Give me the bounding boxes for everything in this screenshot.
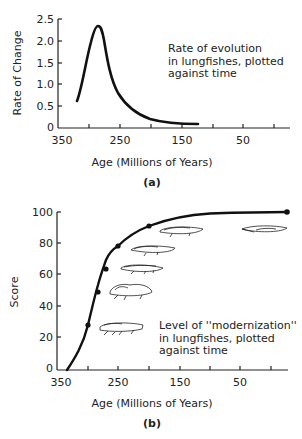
svg-text:1.0: 1.0: [37, 78, 55, 91]
figure: 2.5 2.0 1.5 1.0 0.5 0 Rate of Change 350…: [0, 0, 302, 439]
chart-a-y-tick-labels: 2.5 2.0 1.5 1.0 0.5 0: [37, 13, 55, 134]
svg-text:1.5: 1.5: [37, 57, 55, 70]
svg-text:80: 80: [39, 237, 53, 250]
lungfish-sketch-4-icon: [131, 246, 175, 256]
chart-b-x-label: Age (Millions of Years): [91, 397, 212, 410]
chart-b-annotation: Level of ''modernization'' in lungfishes…: [159, 319, 297, 357]
svg-text:Rate of evolution: Rate of evolution: [168, 42, 262, 55]
lungfish-sketch-1-icon: [100, 323, 143, 335]
svg-text:100: 100: [32, 206, 53, 219]
svg-text:40: 40: [39, 300, 53, 313]
lungfish-sketch-2-icon: [110, 284, 152, 300]
svg-text:against time: against time: [159, 344, 228, 357]
svg-text:0: 0: [47, 121, 54, 134]
chart-a: 2.5 2.0 1.5 1.0 0.5 0 Rate of Change 350…: [11, 13, 290, 189]
chart-a-x-label: Age (Millions of Years): [91, 156, 212, 169]
data-point-marker: [146, 223, 151, 228]
svg-text:250: 250: [110, 134, 131, 147]
lungfish-sketch-6-icon: [242, 226, 287, 232]
chart-a-panel-label: (a): [143, 176, 160, 189]
data-point-marker: [103, 266, 108, 271]
data-point-marker: [85, 322, 90, 327]
svg-text:50: 50: [233, 376, 247, 389]
lungfish-sketch-3-icon: [121, 265, 163, 274]
svg-text:350: 350: [52, 134, 73, 147]
chart-b-x-tick-labels: 350 250 150 50: [51, 376, 248, 389]
svg-text:150: 150: [172, 134, 193, 147]
svg-text:150: 150: [170, 376, 191, 389]
svg-text:20: 20: [39, 331, 53, 344]
chart-a-annotation: Rate of evolution in lungfishes, plotted…: [168, 42, 284, 80]
chart-b-panel-label: (b): [143, 417, 161, 430]
svg-text:50: 50: [236, 134, 250, 147]
svg-text:350: 350: [51, 376, 72, 389]
chart-b-y-label: Score: [8, 276, 21, 307]
data-point-marker: [284, 209, 290, 215]
data-point-marker: [115, 243, 120, 248]
svg-text:0: 0: [46, 362, 53, 375]
svg-text:60: 60: [39, 268, 53, 281]
chart-a-y-label: Rate of Change: [11, 30, 24, 115]
svg-text:0.5: 0.5: [37, 100, 55, 113]
svg-text:2.5: 2.5: [37, 13, 55, 26]
svg-text:250: 250: [108, 376, 129, 389]
svg-text:Level of ''modernization'': Level of ''modernization'': [159, 319, 297, 332]
svg-text:against time: against time: [168, 67, 237, 80]
chart-a-x-tick-labels: 350 250 150 50: [52, 134, 251, 147]
chart-b-y-tick-labels: 100 80 60 40 20 0: [32, 206, 53, 375]
svg-text:2.0: 2.0: [37, 35, 55, 48]
lungfish-sketch-5-icon: [160, 227, 203, 237]
data-point-marker: [95, 289, 100, 294]
chart-b: 100 80 60 40 20 0 Score 350 250 150 50 A…: [8, 206, 297, 430]
